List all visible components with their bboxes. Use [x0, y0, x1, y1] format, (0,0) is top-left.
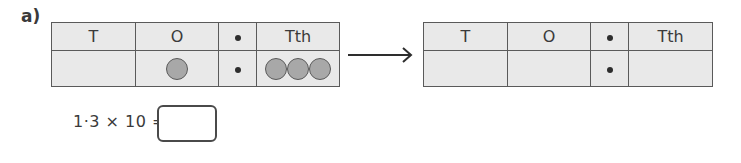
place-value-chart-after: T O Tth — [423, 22, 713, 87]
header-tens: T — [424, 23, 508, 51]
header-decimal-point — [219, 23, 257, 51]
counter-icon — [309, 58, 331, 80]
cell-tens — [52, 51, 136, 87]
place-value-chart-before: T O Tth — [51, 22, 340, 87]
decimal-point-icon — [235, 67, 241, 73]
equation-text: 1·3 × 10 = — [73, 112, 166, 131]
counter-icon — [166, 58, 188, 80]
header-tens: T — [52, 23, 136, 51]
cell-ones[interactable] — [508, 51, 591, 87]
decimal-point-icon — [607, 67, 613, 73]
cell-decimal-point — [219, 51, 257, 87]
cell-tenths[interactable] — [629, 51, 713, 87]
header-decimal-point — [591, 23, 629, 51]
header-ones: O — [508, 23, 591, 51]
counter-icon — [265, 58, 287, 80]
decimal-point-icon — [607, 35, 613, 41]
answer-input-box[interactable] — [157, 105, 217, 142]
cell-ones — [136, 51, 219, 87]
right-arrow-icon — [348, 47, 414, 63]
header-ones: O — [136, 23, 219, 51]
header-tenths: Tth — [257, 23, 340, 51]
header-tenths: Tth — [629, 23, 713, 51]
question-label: a) — [21, 6, 40, 26]
cell-tenths — [257, 51, 340, 87]
cell-tens[interactable] — [424, 51, 508, 87]
counter-icon — [287, 58, 309, 80]
cell-decimal-point — [591, 51, 629, 87]
decimal-point-icon — [235, 35, 241, 41]
